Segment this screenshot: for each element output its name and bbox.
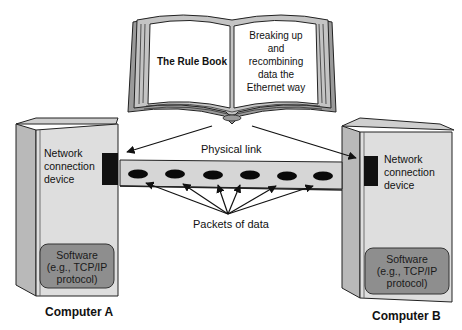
- packets-of-data-label: Packets of data: [193, 218, 269, 231]
- computer-b-software-label: Software (e.g., TCP/IP protocol): [365, 253, 449, 289]
- book-title: The Rule Book: [154, 56, 230, 68]
- packet-5: [277, 172, 297, 181]
- book-description: Breaking up and recombining data the Eth…: [238, 29, 314, 94]
- computer-a-name: Computer A: [45, 306, 113, 320]
- computer-b-nic-label: Network connection device: [384, 153, 435, 192]
- computer-a-software-label: Software (e.g., TCP/IP protocol): [40, 249, 114, 285]
- packet-2: [165, 170, 185, 179]
- packet-4: [240, 171, 260, 180]
- packet-3: [203, 171, 223, 180]
- computer-b-name: Computer B: [372, 310, 441, 324]
- computer-a-nic-label: Network connection device: [44, 147, 95, 186]
- physical-link-label: Physical link: [201, 143, 262, 156]
- packet-1: [128, 170, 148, 179]
- packet-6: [313, 172, 333, 181]
